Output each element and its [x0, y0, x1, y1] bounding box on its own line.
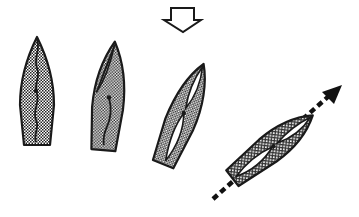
sailboat-1	[20, 37, 54, 145]
hollow-down-arrow-icon	[164, 8, 201, 32]
sailboat-2	[88, 40, 128, 151]
mast-icon	[34, 89, 38, 93]
sailboat-3	[149, 58, 217, 169]
sailboat-diagram	[0, 0, 359, 217]
sailboat-4	[224, 104, 322, 189]
